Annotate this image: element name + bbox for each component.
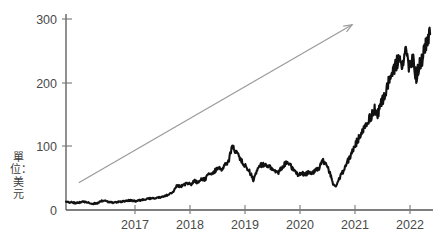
chart-container: 300 200 100 0 2017 2018 2019 2020 2021 2… <box>0 0 437 237</box>
trend-arrow <box>79 25 352 183</box>
y-tick-label-200: 200 <box>36 77 57 91</box>
x-tick-label-2020: 2020 <box>286 218 314 232</box>
y-tick-marks <box>62 19 72 146</box>
trend-arrow-head <box>343 25 352 32</box>
x-tick-label-2021: 2021 <box>341 218 369 232</box>
series-line-price <box>66 28 430 205</box>
y-axis-unit-label: 單位：美元 <box>10 152 26 202</box>
x-tick-label-2017: 2017 <box>121 218 149 232</box>
trend-arrow-shaft <box>79 25 352 183</box>
y-tick-labels: 300 200 100 0 <box>36 13 57 218</box>
y-tick-label-300: 300 <box>36 13 57 27</box>
y-tick-label-100: 100 <box>36 140 57 154</box>
x-tick-labels: 2017 2018 2019 2020 2021 2022 <box>121 218 424 232</box>
x-tick-label-2018: 2018 <box>176 218 204 232</box>
x-tick-label-2022: 2022 <box>396 218 424 232</box>
x-tick-label-2019: 2019 <box>231 218 259 232</box>
line-chart: 300 200 100 0 2017 2018 2019 2020 2021 2… <box>0 0 437 237</box>
y-tick-label-0: 0 <box>50 204 57 218</box>
